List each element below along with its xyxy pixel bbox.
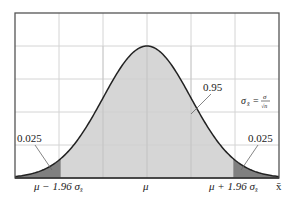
formula-eq: = [253, 95, 259, 106]
tick-left-prefix: μ − 1.96 [33, 180, 74, 192]
formula-lhs-sub: x̄ [246, 101, 250, 107]
tick-right-prefix: μ + 1.96 [208, 180, 249, 192]
left-tail-leader [35, 145, 52, 170]
formula-num: σ [263, 93, 267, 101]
right-tail-leader [241, 145, 258, 170]
right-tail-label: 0.025 [248, 132, 273, 144]
svg-text:μ − 1.96 σx̄: μ − 1.96 σx̄ [33, 180, 83, 193]
tick-left-sub: x̄ [79, 187, 83, 193]
tick-right: μ + 1.96 σx̄ [208, 180, 258, 193]
left-tail-label: 0.025 [17, 132, 42, 144]
svg-text:μ + 1.96 σx̄: μ + 1.96 σx̄ [208, 180, 258, 193]
formula-den: √n [261, 103, 267, 109]
standard-error-formula: σ x̄ = σ √n [241, 93, 270, 109]
tick-left: μ − 1.96 σx̄ [33, 180, 83, 193]
tick-mu: μ [142, 180, 149, 192]
normal-distribution-chart: 0.025 0.025 0.95 σ x̄ = σ √n μ − 1.96 σx… [0, 0, 293, 206]
center-label: 0.95 [203, 81, 223, 93]
x-axis-label: x̄ [276, 180, 282, 192]
tick-right-sub: x̄ [254, 187, 258, 193]
